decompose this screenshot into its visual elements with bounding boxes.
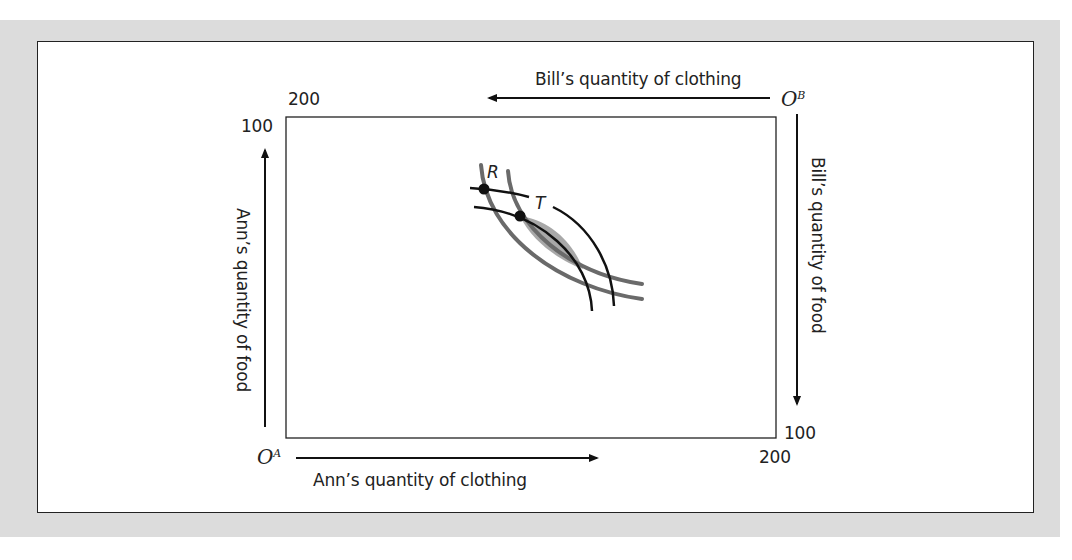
top-left-food-tick: 100 — [241, 116, 273, 136]
origin-bill: OB — [781, 87, 805, 111]
top-left-clothing-tick: 200 — [288, 89, 320, 109]
bottom-right-food-tick: 100 — [784, 423, 816, 443]
ann-clothing-label: Ann’s quantity of clothing — [313, 470, 527, 490]
point-t-dot — [515, 211, 526, 222]
bill-indifference-curve-1 — [474, 207, 592, 311]
ann-food-label: Ann’s quantity of food — [233, 208, 253, 392]
origin-ann-base: O — [257, 445, 273, 469]
edgeworth-box — [286, 117, 776, 438]
origin-ann-sup: A — [273, 447, 281, 460]
bill-clothing-label: Bill’s quantity of clothing — [535, 69, 741, 89]
bill-food-label: Bill’s quantity of food — [808, 157, 828, 334]
origin-bill-sup: B — [797, 89, 805, 102]
point-t-label: T — [535, 193, 545, 213]
point-r-label: R — [487, 162, 499, 182]
point-r-dot — [479, 184, 490, 195]
origin-bill-base: O — [781, 87, 797, 111]
origin-ann: OA — [257, 445, 281, 469]
bottom-right-clothing-tick: 200 — [759, 447, 791, 467]
